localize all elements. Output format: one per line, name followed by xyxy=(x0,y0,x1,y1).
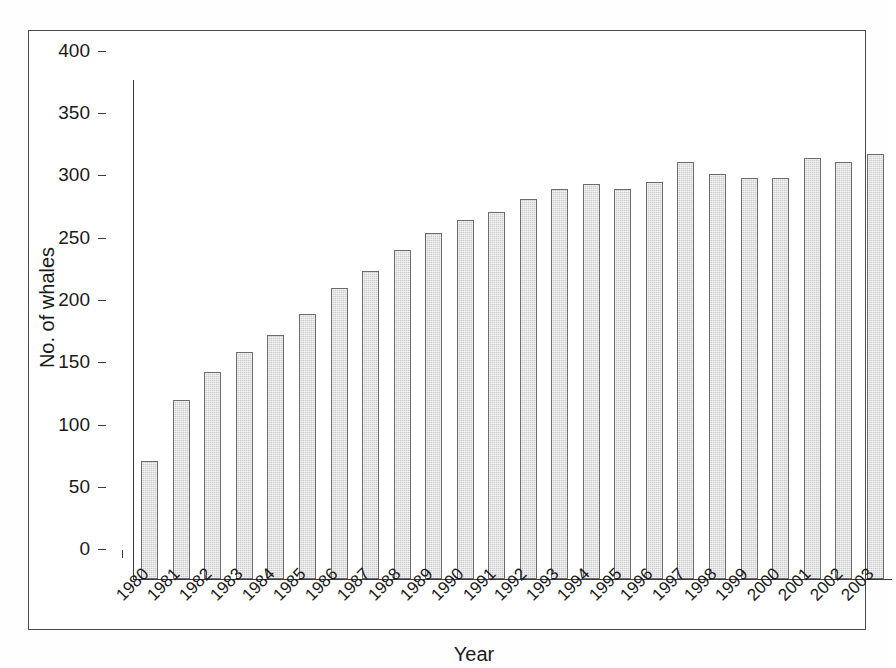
bar xyxy=(141,461,158,579)
y-axis-tick-label-text: 50 xyxy=(30,477,90,496)
plot-area xyxy=(134,81,891,579)
bar xyxy=(551,189,568,579)
bar xyxy=(204,372,221,579)
y-axis-tick-label-text: 0 xyxy=(30,539,90,558)
y-axis-tick-label: 50 xyxy=(28,477,90,496)
bar xyxy=(425,233,442,579)
bar xyxy=(583,184,600,579)
bar xyxy=(709,174,726,579)
bar xyxy=(520,199,537,579)
y-axis-tick xyxy=(98,238,106,239)
bar xyxy=(331,288,348,579)
y-axis-tick xyxy=(98,175,106,176)
y-axis-tick-label: 200 xyxy=(28,290,90,309)
bar xyxy=(677,162,694,579)
y-axis-tick xyxy=(98,549,106,550)
x-axis-tick xyxy=(122,550,123,558)
bar xyxy=(362,271,379,579)
bar xyxy=(267,335,284,579)
bar xyxy=(835,162,852,579)
y-axis-tick xyxy=(98,362,106,363)
bar xyxy=(299,314,316,579)
y-axis-tick-label: 300 xyxy=(28,165,90,184)
y-axis-tick-label-text: 200 xyxy=(30,290,90,309)
y-axis-tick-label-text: 400 xyxy=(30,41,90,60)
bar xyxy=(236,352,253,579)
y-axis-tick-label: 100 xyxy=(28,415,90,434)
y-axis-tick-label: 400 xyxy=(28,41,90,60)
y-axis-tick-label: 350 xyxy=(28,103,90,122)
y-axis-tick xyxy=(98,425,106,426)
bar xyxy=(772,178,789,579)
y-axis-tick xyxy=(98,51,106,52)
y-axis-tick xyxy=(98,300,106,301)
bar xyxy=(804,158,821,579)
y-axis-tick-label: 250 xyxy=(28,228,90,247)
bar xyxy=(457,220,474,579)
y-axis-tick-label: 0 xyxy=(28,539,90,558)
y-axis-tick-label-text: 250 xyxy=(30,228,90,247)
y-axis-tick-label-text: 300 xyxy=(30,165,90,184)
y-axis-tick-label-text: 150 xyxy=(30,352,90,371)
chart-frame: No. of whales 050100150200250300350400 1… xyxy=(28,30,866,630)
bar xyxy=(741,178,758,579)
y-axis-tick xyxy=(98,113,106,114)
bar xyxy=(394,250,411,579)
bar xyxy=(614,189,631,579)
bar xyxy=(488,212,505,579)
x-axis-title: Year xyxy=(29,643,896,666)
y-axis-tick xyxy=(98,487,106,488)
bar xyxy=(646,182,663,579)
y-axis-tick-label-text: 100 xyxy=(30,415,90,434)
bar xyxy=(173,400,190,579)
bar xyxy=(867,154,884,579)
y-axis-tick-label-text: 350 xyxy=(30,103,90,122)
y-axis-tick-label: 150 xyxy=(28,352,90,371)
